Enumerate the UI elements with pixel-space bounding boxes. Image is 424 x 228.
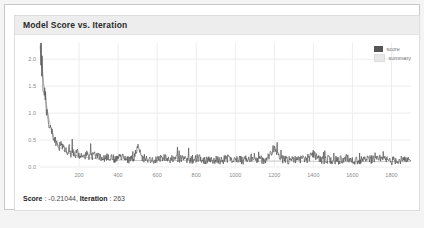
x-tick-label: 400 — [114, 172, 123, 178]
y-tick-label: 2.0 — [28, 56, 36, 62]
panel-header: Model Score vs. Iteration — [15, 16, 419, 35]
y-tick-label: 0.0 — [28, 164, 36, 170]
y-axis-tick-labels: 0.00.51.01.52.0 — [28, 56, 36, 170]
status-iteration-value: 263 — [113, 195, 125, 202]
y-tick-label: 1.5 — [28, 83, 36, 89]
x-tick-label: 1000 — [229, 172, 241, 178]
legend-label-summary: summary — [388, 55, 411, 61]
x-tick-label: 200 — [74, 172, 83, 178]
legend-swatch-score — [374, 46, 383, 52]
window-frame: Model Score vs. Iteration 20040060080010… — [4, 4, 420, 210]
score-vs-iteration-chart: 20040060080010001200140016001800 0.00.51… — [15, 35, 419, 185]
series-line-summary — [40, 46, 411, 162]
x-tick-label: 600 — [153, 172, 162, 178]
series-line-score — [40, 43, 411, 165]
status-bar: Score : -0.21044, Iteration : 263 — [15, 184, 419, 210]
status-iteration-label: Iteration — [80, 195, 108, 202]
x-tick-label: 800 — [192, 172, 201, 178]
status-score-value: -0.21044 — [48, 195, 76, 202]
status-score-label: Score — [23, 195, 42, 202]
chart-legend: score summary — [374, 46, 411, 62]
page-title: Model Score vs. Iteration — [23, 20, 127, 30]
y-tick-label: 1.0 — [28, 110, 36, 116]
x-tick-label: 1200 — [268, 172, 280, 178]
series-lines — [40, 43, 411, 165]
x-axis-tick-labels: 20040060080010001200140016001800 — [74, 172, 397, 178]
chart-panel: Model Score vs. Iteration 20040060080010… — [14, 15, 420, 211]
legend-item-score[interactable]: score — [374, 46, 411, 52]
status-readout: Score : -0.21044, Iteration : 263 — [23, 195, 125, 202]
legend-swatch-summary — [374, 54, 385, 62]
legend-item-summary[interactable]: summary — [374, 54, 411, 62]
screenshot-viewport: Model Score vs. Iteration 20040060080010… — [0, 0, 424, 228]
grid-lines — [40, 43, 411, 167]
y-tick-label: 0.5 — [28, 137, 36, 143]
legend-label-score: score — [386, 46, 399, 52]
x-tick-label: 1600 — [346, 172, 358, 178]
x-tick-label: 1800 — [385, 172, 397, 178]
x-tick-label: 1400 — [307, 172, 319, 178]
chart-plot-area: 20040060080010001200140016001800 0.00.51… — [15, 35, 419, 185]
